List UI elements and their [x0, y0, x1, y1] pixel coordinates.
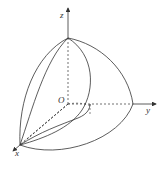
diagram-canvas: z y x O	[0, 0, 166, 173]
solid-outline	[20, 38, 133, 150]
x-axis-label: x	[14, 148, 19, 158]
y-axis-label: y	[145, 105, 150, 115]
origin-label: O	[58, 95, 65, 105]
z-axis-label: z	[59, 10, 64, 20]
